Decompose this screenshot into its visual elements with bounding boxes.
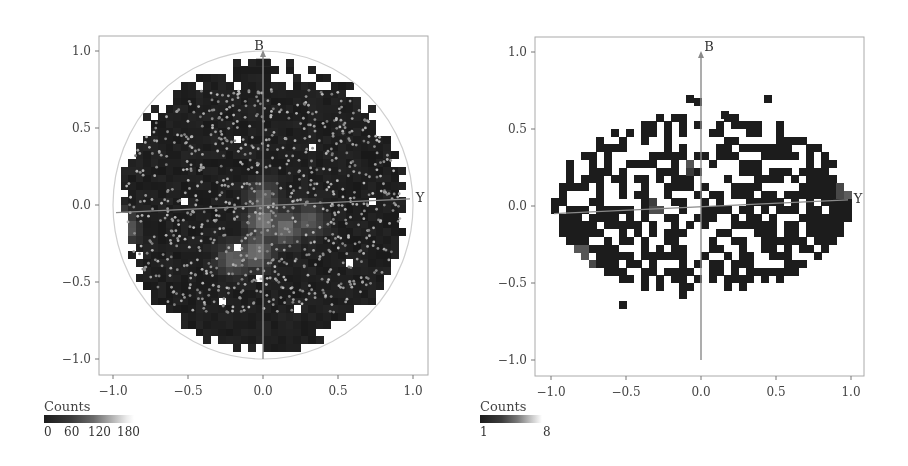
left-colorbar-ticks: 0 60 120 180 [44, 425, 144, 441]
y-tick-label: 1.0 [508, 45, 527, 59]
left-colorbar-tick-180: 180 [117, 425, 140, 439]
right-colorbar-tick-8: 8 [543, 425, 551, 439]
y-tick-label: −1.0 [62, 352, 91, 366]
x-tick-label: −1.0 [536, 385, 565, 399]
b-axis-label: B [704, 39, 714, 54]
x-tick-label: 0.0 [691, 385, 710, 399]
right-colorbar-legend: Counts 1 8 [480, 400, 580, 441]
right-colorbar-ticks: 1 8 [480, 425, 580, 441]
right-colorbar-gradient [480, 415, 542, 423]
x-tick-label: 1.0 [841, 385, 860, 399]
y-tick-label: 0.5 [508, 122, 527, 136]
left-colorbar-tick-120: 120 [88, 425, 111, 439]
b-axis-arrow-icon [698, 51, 704, 58]
left-colorbar-title: Counts [44, 400, 144, 414]
right-axes: −1.0−0.50.00.51.01.00.50.0−0.5−1.0BY [454, 0, 908, 466]
left-histogram-panel: −1.0−0.50.00.51.01.00.50.0−0.5−1.0BY Cou… [0, 0, 454, 466]
left-colorbar-tick-60: 60 [64, 425, 79, 439]
x-tick-label: 0.0 [253, 384, 272, 398]
right-histogram-panel: −1.0−0.50.00.51.01.00.50.0−0.5−1.0BY Cou… [454, 0, 908, 466]
y-axis-label: Y [415, 190, 425, 205]
left-colorbar-gradient [44, 415, 134, 423]
y-tick-label: 0.5 [72, 121, 91, 135]
y-tick-label: −0.5 [498, 276, 527, 290]
y-tick-label: −0.5 [62, 275, 91, 289]
left-colorbar-legend: Counts 0 60 120 180 [44, 400, 144, 441]
x-tick-label: −1.0 [98, 384, 127, 398]
right-colorbar-title: Counts [480, 400, 580, 414]
x-tick-label: 0.5 [328, 384, 347, 398]
x-tick-label: −0.5 [611, 385, 640, 399]
y-tick-label: 0.0 [508, 199, 527, 213]
x-tick-label: 1.0 [403, 384, 422, 398]
x-tick-label: 0.5 [766, 385, 785, 399]
y-tick-label: −1.0 [498, 353, 527, 367]
left-colorbar-tick-0: 0 [44, 425, 52, 439]
right-colorbar-tick-1: 1 [480, 425, 488, 439]
y-tick-label: 0.0 [72, 198, 91, 212]
x-tick-label: −0.5 [173, 384, 202, 398]
y-axis-label: Y [853, 191, 863, 206]
b-axis-label: B [254, 38, 264, 53]
y-tick-label: 1.0 [72, 44, 91, 58]
left-axes: −1.0−0.50.00.51.01.00.50.0−0.5−1.0BY [0, 0, 454, 466]
